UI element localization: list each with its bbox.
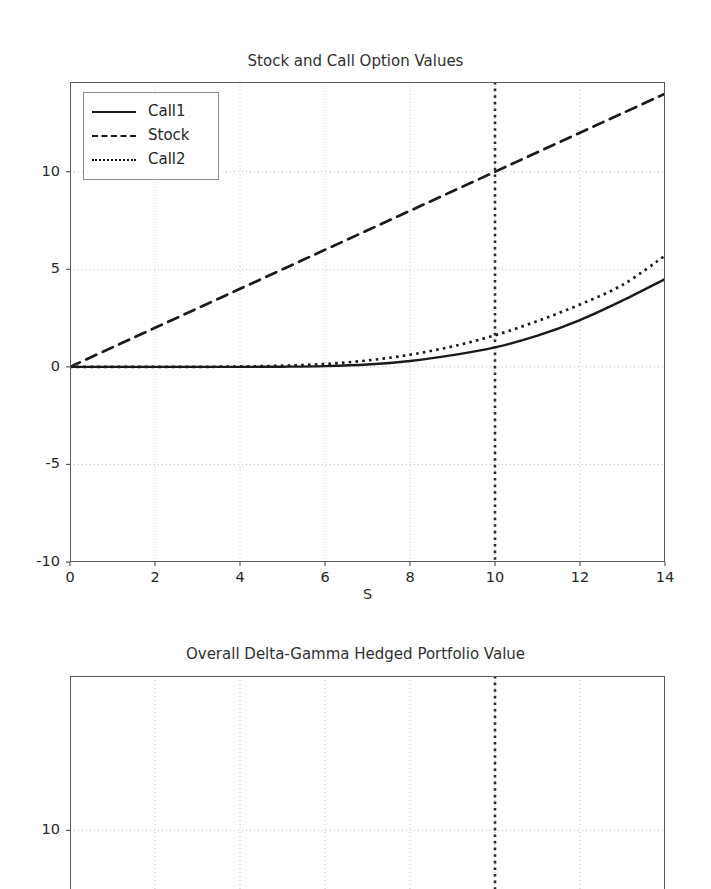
x-tick-label: 4 [215,569,265,585]
matplotlib-figure: Stock and Call Option Values Call1 Stock… [0,0,711,889]
legend-label-call2: Call2 [148,150,186,168]
y-tick-label: 0 [8,358,60,374]
x-tick-label: 8 [385,569,435,585]
x-axis-label-top: S [70,586,665,602]
x-tick-label: 2 [130,569,180,585]
x-tick-label: 12 [555,569,605,585]
legend-item-call2: Call2 [92,147,208,171]
y-tick-label: -5 [8,455,60,471]
y-tick-label: -10 [8,553,60,569]
x-tick-label: 0 [45,569,95,585]
axes-stock-and-call-option-values: Stock and Call Option Values Call1 Stock… [0,0,711,610]
x-tick-label: 10 [470,569,520,585]
x-tick-label: 14 [640,569,690,585]
plot-frame-bottom [70,676,665,889]
legend-item-stock: Stock [92,123,208,147]
y-tick-label: 5 [8,260,60,276]
legend-key-solid-icon [92,104,136,118]
legend-key-dotted-icon [92,152,136,166]
legend-top: Call1 Stock Call2 [83,92,219,180]
legend-label-call1: Call1 [148,102,186,120]
legend-item-call1: Call1 [92,99,208,123]
x-tick-label: 6 [300,569,350,585]
y-tick-label: 10 [8,821,60,837]
axes-overall-delta-gamma-hedged-portfolio-value: Overall Delta-Gamma Hedged Portfolio Val… [0,620,711,889]
y-tick-label: 10 [8,163,60,179]
legend-key-dashed-icon [92,128,136,142]
legend-label-stock: Stock [148,126,190,144]
